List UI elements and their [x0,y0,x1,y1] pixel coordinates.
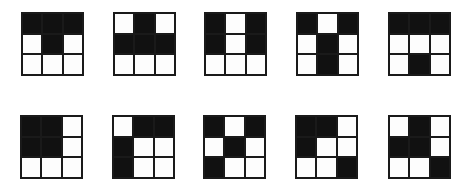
filled-cell [297,117,315,136]
empty-cell [23,35,41,54]
pattern-grid-row2-2 [112,115,175,179]
empty-cell [298,35,316,54]
filled-cell [410,138,428,157]
empty-cell [114,117,132,136]
filled-cell [247,14,265,33]
filled-cell [22,117,40,136]
empty-cell [339,35,357,54]
empty-cell [317,158,335,177]
empty-cell [246,158,264,177]
empty-cell [134,158,152,177]
filled-cell [247,35,265,54]
empty-cell [226,55,244,74]
pattern-grid-row2-3 [203,115,266,179]
empty-cell [115,14,133,33]
pattern-grid-row1-5 [388,12,451,76]
filled-cell [225,138,243,157]
empty-cell [390,117,408,136]
filled-cell [42,117,60,136]
empty-cell [410,158,428,177]
empty-cell [431,117,449,136]
pattern-grid-row1-2 [113,12,176,76]
filled-cell [297,138,315,157]
empty-cell [410,35,428,54]
empty-cell [115,55,133,74]
empty-cell [246,138,264,157]
filled-cell [205,158,223,177]
empty-cell [156,14,174,33]
filled-cell [64,14,82,33]
filled-cell [298,14,316,33]
empty-cell [338,117,356,136]
filled-cell [390,14,408,33]
empty-cell [64,55,82,74]
filled-cell [410,55,428,74]
pattern-grid-row2-4 [295,115,358,179]
filled-cell [42,138,60,157]
filled-cell [431,158,449,177]
empty-cell [42,158,60,177]
filled-cell [339,14,357,33]
empty-cell [226,35,244,54]
filled-cell [431,14,449,33]
filled-cell [206,35,224,54]
empty-cell [63,138,81,157]
empty-cell [298,55,316,74]
filled-cell [114,138,132,157]
empty-cell [297,158,315,177]
empty-cell [43,55,61,74]
empty-cell [318,14,336,33]
filled-cell [317,117,335,136]
filled-cell [318,35,336,54]
filled-cell [22,138,40,157]
filled-cell [135,14,153,33]
pattern-grid-row1-4 [296,12,359,76]
empty-cell [155,138,173,157]
filled-cell [206,14,224,33]
filled-cell [155,117,173,136]
empty-cell [390,55,408,74]
pattern-grid-row2-5 [388,115,451,179]
filled-cell [135,35,153,54]
empty-cell [205,138,223,157]
filled-cell [318,55,336,74]
empty-cell [247,55,265,74]
empty-cell [206,55,224,74]
filled-cell [246,117,264,136]
filled-cell [410,117,428,136]
empty-cell [135,55,153,74]
empty-cell [226,14,244,33]
filled-cell [115,35,133,54]
pattern-grid-row1-3 [204,12,267,76]
empty-cell [156,55,174,74]
filled-cell [205,117,223,136]
empty-cell [317,138,335,157]
filled-cell [410,14,428,33]
empty-cell [338,138,356,157]
empty-cell [390,158,408,177]
empty-cell [63,158,81,177]
filled-cell [338,158,356,177]
pattern-grid-row2-1 [20,115,83,179]
pattern-grid-row1-1 [21,12,84,76]
empty-cell [22,158,40,177]
empty-cell [431,138,449,157]
empty-cell [155,158,173,177]
filled-cell [134,117,152,136]
empty-cell [63,117,81,136]
empty-cell [225,117,243,136]
empty-cell [339,55,357,74]
empty-cell [431,55,449,74]
filled-cell [43,14,61,33]
filled-cell [43,35,61,54]
empty-cell [23,55,41,74]
filled-cell [156,35,174,54]
empty-cell [225,158,243,177]
filled-cell [390,138,408,157]
filled-cell [114,158,132,177]
empty-cell [390,35,408,54]
filled-cell [23,14,41,33]
empty-cell [134,138,152,157]
empty-cell [431,35,449,54]
empty-cell [64,35,82,54]
